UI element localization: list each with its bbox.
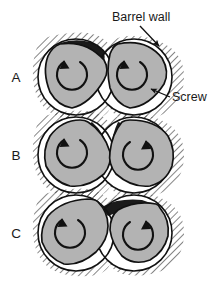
barrel-wall-label: Barrel wall <box>112 10 170 24</box>
screw-label: Screw <box>172 90 208 104</box>
row-label-c: C <box>11 226 21 241</box>
row-label-b: B <box>11 148 20 163</box>
twin-screw-extruder-figure: A B <box>0 0 220 284</box>
row-c-group: C <box>11 189 184 277</box>
row-label-a: A <box>11 70 20 85</box>
row-b-group: B <box>11 111 184 199</box>
diagram-canvas: A B <box>0 0 220 284</box>
